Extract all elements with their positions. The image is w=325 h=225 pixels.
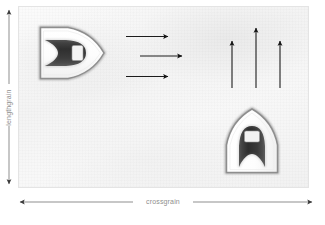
grain-direction-figure: lengthgrain crossgrain [0,0,325,225]
lengthgrain-arrows [232,28,280,88]
figure-artwork [0,0,325,225]
crossgrain-label: crossgrain [137,198,189,205]
iron-lengthgrain-grip-opening [245,131,260,142]
iron-crossgrain-grip-opening [72,46,83,61]
crossgrain-arrows [126,37,182,77]
iron-crossgrain [41,28,105,79]
iron-lengthgrain [227,109,278,173]
lengthgrain-label: lengthgrain [5,83,12,133]
